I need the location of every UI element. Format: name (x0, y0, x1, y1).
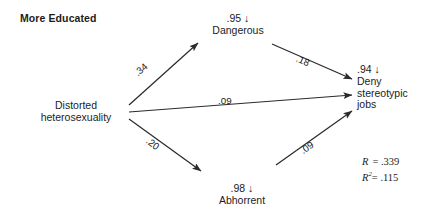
r-squared-equals: = (372, 172, 378, 183)
node-outcome-line3: jobs (357, 99, 437, 111)
path-line-dangerous-to-outcome (272, 44, 352, 79)
group-title: More Educated (20, 12, 97, 24)
statistic-r: R= .339 (362, 156, 399, 168)
path-diagram: More Educated Distorted heterosexuality … (0, 0, 439, 219)
node-predictor-line2: heterosexuality (22, 112, 130, 124)
node-predictor: Distorted heterosexuality (22, 100, 130, 124)
r-value: .339 (381, 156, 399, 167)
statistic-r-squared: R2= .115 (362, 168, 399, 184)
path-line-abhorrent-to-outcome (276, 111, 352, 165)
node-outcome-line1: Deny (357, 76, 437, 88)
node-mediator-abhorrent-label: Abhorrent (196, 195, 288, 207)
node-mediator-dangerous-label: Dangerous (192, 25, 284, 37)
r-squared-value: .115 (380, 172, 398, 183)
model-statistics: R= .339 R2= .115 (362, 156, 399, 184)
r-equals: = (372, 156, 378, 167)
node-mediator-abhorrent: .98 ↓ Abhorrent (196, 183, 288, 207)
node-outcome: .94 ↓ Deny stereotypic jobs (357, 64, 437, 111)
node-mediator-dangerous: .95 ↓ Dangerous (192, 13, 284, 37)
r-symbol: R (362, 156, 368, 167)
path-coefficient-predictor-to-outcome: .09 (218, 95, 232, 106)
path-line-predictor-to-outcome (129, 95, 352, 112)
path-line-predictor-to-abhorrent (129, 119, 201, 171)
